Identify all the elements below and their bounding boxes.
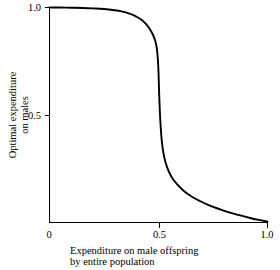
x-axis-title: Expenditure on male offspring by entire … [70,245,199,267]
x-tick-label-zero: 0 [46,229,51,240]
x-axis-title-line2: by entire population [70,256,155,267]
x-tick-label-mid: 0.5 [153,229,166,240]
chart-figure: 1.0 0.5 0 0.5 1.0 Optimal expenditure on… [0,0,280,270]
y-axis-title-line2: on males [19,96,30,134]
optimal-expenditure-curve [50,7,268,221]
figure-container: 1.0 0.5 0 0.5 1.0 Optimal expenditure on… [0,0,280,270]
x-axis-title-line1: Expenditure on male offspring [70,245,199,256]
x-tick-label-max: 1.0 [260,229,273,240]
y-axis-title: Optimal expenditure on males [7,71,30,158]
y-tick-label-max: 1.0 [28,2,41,13]
y-axis-title-line1: Optimal expenditure [7,71,18,158]
